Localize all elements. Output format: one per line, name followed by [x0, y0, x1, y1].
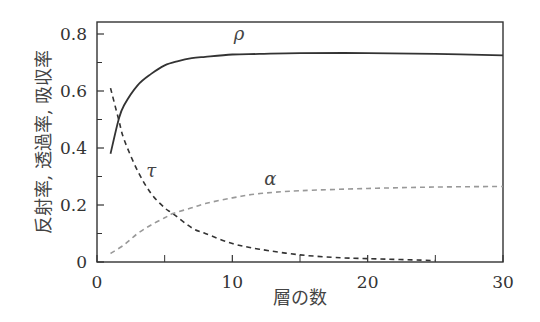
rho-label: ρ — [233, 23, 245, 44]
chart: 00.20.40.60.80102030層の数反射率, 透過率, 吸収率ρτα — [0, 0, 540, 322]
y-tick-label: 0.6 — [60, 81, 87, 101]
x-axis-label: 層の数 — [273, 287, 327, 308]
rho-curve — [111, 53, 503, 154]
x-tick-label: 30 — [492, 272, 514, 292]
x-tick-label: 0 — [92, 272, 103, 292]
x-tick-label: 20 — [357, 272, 379, 292]
y-tick-label: 0.2 — [60, 195, 87, 215]
x-tick-label: 10 — [222, 272, 244, 292]
y-tick-label: 0 — [76, 252, 87, 272]
y-axis-label: 反射率, 透過率, 吸収率 — [33, 50, 54, 235]
plot-frame — [97, 22, 503, 262]
tau-label: τ — [146, 160, 157, 181]
alpha-label: α — [264, 168, 276, 189]
alpha-curve — [111, 186, 503, 253]
y-tick-label: 0.8 — [60, 24, 87, 44]
y-tick-label: 0.4 — [60, 138, 87, 158]
